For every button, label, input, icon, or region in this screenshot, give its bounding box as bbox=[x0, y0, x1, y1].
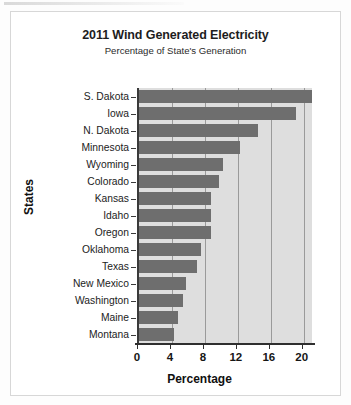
chart-title-block: 2011 Wind Generated Electricity Percenta… bbox=[11, 28, 340, 57]
bar-row bbox=[139, 122, 312, 139]
bar-row bbox=[139, 258, 312, 275]
y-axis-label-texas: Texas bbox=[102, 258, 129, 275]
x-tick-20 bbox=[302, 343, 303, 349]
y-tick-6 bbox=[131, 199, 136, 200]
x-axis-line bbox=[135, 343, 315, 345]
y-axis-labels: S. DakotaIowaN. DakotaMinnesotaWyomingCo… bbox=[39, 88, 129, 343]
y-axis-label-oklahoma: Oklahoma bbox=[82, 241, 129, 258]
y-tick-14 bbox=[131, 335, 136, 336]
bar-s-dakota bbox=[139, 90, 312, 103]
bar-texas bbox=[139, 260, 197, 273]
bar-row bbox=[139, 88, 312, 105]
x-tick-label-20: 20 bbox=[295, 351, 308, 363]
bar-kansas bbox=[139, 192, 211, 205]
y-tick-10 bbox=[131, 267, 136, 268]
y-axis-label-iowa: Iowa bbox=[107, 105, 129, 122]
scanned-page: 2011 Wind Generated Electricity Percenta… bbox=[0, 0, 351, 405]
y-axis-label-idaho: Idaho bbox=[103, 207, 129, 224]
y-axis-label-washington: Washington bbox=[75, 292, 129, 309]
x-axis-title: Percentage bbox=[11, 372, 340, 386]
x-tick-label-4: 4 bbox=[167, 351, 173, 363]
x-tick-16 bbox=[269, 343, 270, 349]
bar-row bbox=[139, 173, 312, 190]
chart-subtitle: Percentage of State's Generation bbox=[11, 44, 340, 57]
bar-row bbox=[139, 105, 312, 122]
y-axis-label-s-dakota: S. Dakota bbox=[84, 88, 129, 105]
bar-wyoming bbox=[139, 158, 223, 171]
x-tick-label-16: 16 bbox=[262, 351, 275, 363]
x-axis-title-label: Percentage bbox=[167, 372, 232, 386]
bar-idaho bbox=[139, 209, 211, 222]
y-tick-11 bbox=[131, 284, 136, 285]
bar-row bbox=[139, 275, 312, 292]
bar-row bbox=[139, 292, 312, 309]
y-axis-label-maine: Maine bbox=[101, 309, 129, 326]
y-tick-7 bbox=[131, 216, 136, 217]
y-tick-2 bbox=[131, 131, 136, 132]
bar-row bbox=[139, 309, 312, 326]
y-axis-label-colorado: Colorado bbox=[87, 173, 129, 190]
y-tick-8 bbox=[131, 233, 136, 234]
y-axis-label-montana: Montana bbox=[89, 326, 129, 343]
bar-series bbox=[139, 88, 312, 343]
bar-row bbox=[139, 326, 312, 343]
bar-row bbox=[139, 156, 312, 173]
bar-row bbox=[139, 139, 312, 156]
bar-maine bbox=[139, 311, 178, 324]
y-tick-0 bbox=[131, 97, 136, 98]
x-tick-label-12: 12 bbox=[229, 351, 242, 363]
y-axis-label-new-mexico: New Mexico bbox=[73, 275, 129, 292]
bar-minnesota bbox=[139, 141, 240, 154]
y-axis-label-oregon: Oregon bbox=[95, 224, 129, 241]
x-tick-8 bbox=[203, 343, 204, 349]
y-tick-3 bbox=[131, 148, 136, 149]
x-tick-label-0: 0 bbox=[134, 351, 140, 363]
bar-washington bbox=[139, 294, 183, 307]
x-tick-4 bbox=[170, 343, 171, 349]
bar-row bbox=[139, 241, 312, 258]
bar-oregon bbox=[139, 226, 211, 239]
bar-row bbox=[139, 207, 312, 224]
bar-iowa bbox=[139, 107, 296, 120]
y-tick-13 bbox=[131, 318, 136, 319]
bar-row bbox=[139, 224, 312, 241]
y-tick-1 bbox=[131, 114, 136, 115]
bar-oklahoma bbox=[139, 243, 201, 256]
scan-artifact-line bbox=[4, 2, 184, 5]
y-tick-12 bbox=[131, 301, 136, 302]
chart-title: 2011 Wind Generated Electricity bbox=[11, 28, 340, 42]
y-axis-label-wyoming: Wyoming bbox=[86, 156, 129, 173]
chart-figure-frame: 2011 Wind Generated Electricity Percenta… bbox=[10, 11, 341, 396]
y-tick-4 bbox=[131, 165, 136, 166]
bar-n-dakota bbox=[139, 124, 258, 137]
y-axis-title: States bbox=[22, 157, 36, 237]
bar-montana bbox=[139, 328, 174, 341]
bar-new-mexico bbox=[139, 277, 186, 290]
y-axis-label-kansas: Kansas bbox=[95, 190, 129, 207]
bar-row bbox=[139, 190, 312, 207]
bar-colorado bbox=[139, 175, 219, 188]
y-axis-label-n-dakota: N. Dakota bbox=[83, 122, 129, 139]
plot-area bbox=[137, 88, 312, 343]
y-tick-9 bbox=[131, 250, 136, 251]
y-axis-label-minnesota: Minnesota bbox=[81, 139, 129, 156]
y-tick-5 bbox=[131, 182, 136, 183]
x-tick-label-8: 8 bbox=[200, 351, 206, 363]
x-tick-12 bbox=[236, 343, 237, 349]
x-tick-0 bbox=[137, 343, 138, 349]
